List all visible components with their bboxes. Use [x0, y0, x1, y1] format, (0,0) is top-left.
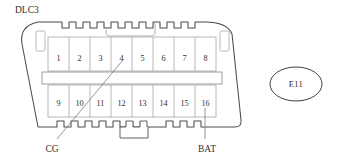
pin-1: 1: [56, 54, 60, 63]
connector-drawing: DLC3 1 2 3 4 5: [0, 0, 337, 165]
pin-2: 2: [77, 54, 81, 63]
pin-16: 16: [201, 99, 209, 108]
pin-10: 10: [75, 99, 83, 108]
pin-15: 15: [180, 99, 188, 108]
pin-14: 14: [159, 99, 167, 108]
pin-7: 7: [182, 54, 186, 63]
bottom-tab-castellation: [120, 121, 147, 127]
top-center-recess: [106, 23, 155, 36]
middle-separator-bar: [42, 72, 222, 84]
pin-5: 5: [140, 54, 144, 63]
dlc3-connector-diagram: DLC3 1 2 3 4 5: [0, 0, 337, 165]
pin-8: 8: [203, 54, 207, 63]
pin-4: 4: [119, 54, 123, 63]
left-latch-rectangle: [36, 31, 45, 51]
right-latch-rectangle: [220, 31, 229, 51]
pin-row-bottom: 9 10 11 12 13 14 15 16: [48, 85, 216, 117]
callout-label-bat: BAT: [198, 144, 216, 154]
pin-9: 9: [56, 99, 60, 108]
connector-code-text: E11: [289, 79, 303, 89]
bottom-center-tab: [120, 127, 148, 138]
pin-12: 12: [117, 99, 125, 108]
pin-row-top: 1 2 3 4 5 6 7 8: [48, 37, 216, 71]
pin-6: 6: [161, 54, 165, 63]
pin-13: 13: [138, 99, 146, 108]
callout-label-cg: CG: [45, 144, 58, 154]
diagram-title: DLC3: [15, 5, 39, 15]
connector-code-badge: E11: [270, 67, 322, 101]
pin-3: 3: [98, 54, 102, 63]
pin-11: 11: [97, 99, 105, 108]
